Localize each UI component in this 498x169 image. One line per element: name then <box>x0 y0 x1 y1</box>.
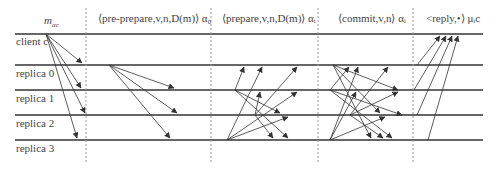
lane-label-client: client c <box>16 36 48 47</box>
pre-prepare-arrows <box>109 65 177 138</box>
phase-label-commit: ⟨commit,v,n⟩ αᵢ <box>338 13 406 24</box>
lane-label-replica-2: replica 2 <box>16 118 54 129</box>
phase-label-request: mαc <box>44 15 59 29</box>
phase-label-prepare: ⟨prepare,v,n,D(m)⟩ αᵢ <box>222 13 316 24</box>
phase-label-pre-prepare: ⟨pre-prepare,v,n,D(m)⟩ α₀ <box>98 13 211 24</box>
lane-label-replica-1: replica 1 <box>16 93 54 104</box>
phase-dividers <box>86 8 413 162</box>
lane-label-replica-0: replica 0 <box>16 68 54 79</box>
commit-arrows <box>330 65 402 140</box>
reply-arrows <box>414 36 458 140</box>
lane-label-replica-3: replica 3 <box>16 143 54 154</box>
phase-label-reply: <reply,•⟩ μᵢc <box>426 13 480 24</box>
prepare-arrows <box>227 67 297 140</box>
pbft-sequence-diagram <box>0 0 498 169</box>
